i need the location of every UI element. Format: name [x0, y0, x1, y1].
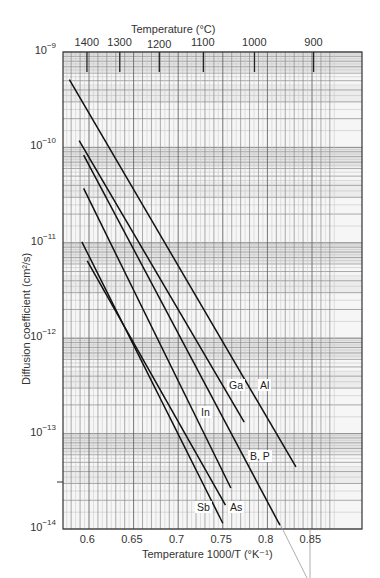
x-tick-label: 0.6: [80, 533, 95, 545]
y-tick-label: 10−11: [6, 233, 56, 247]
y-tick-label: 10−13: [6, 424, 56, 438]
x-axis-title: Temperature 1000/T (°K⁻¹): [142, 548, 273, 561]
top-axis-title: Temperature (°C): [131, 23, 215, 35]
series-label: Sb: [195, 501, 212, 513]
top-tick-label: 900: [304, 36, 322, 48]
y-tick-label: 10−14: [6, 519, 56, 533]
x-tick-label: 0.8: [258, 533, 273, 545]
x-tick-label: 0.7: [169, 533, 184, 545]
x-tick-label: 0.75: [210, 533, 231, 545]
series-label: Al: [258, 379, 271, 391]
top-tick-label: 1100: [191, 36, 215, 48]
top-tick-label: 1300: [107, 36, 131, 48]
chart-plot: [0, 0, 380, 578]
x-tick-label: 0.65: [121, 533, 142, 545]
top-tick-label: 1400: [75, 36, 99, 48]
y-axis-title: Diffusion coefficient (cm²/s): [20, 253, 32, 385]
y-tick-label: 10−9: [6, 42, 56, 56]
series-label: As: [228, 501, 244, 513]
x-tick-label: 0.85: [300, 533, 321, 545]
top-tick-label: 1000: [242, 36, 266, 48]
series-label: B, P: [248, 450, 272, 462]
y-tick-label: 10−10: [6, 137, 56, 151]
top-tick-label: 1200: [147, 38, 171, 50]
series-label: In: [199, 406, 212, 418]
series-label: Ga: [227, 379, 245, 391]
